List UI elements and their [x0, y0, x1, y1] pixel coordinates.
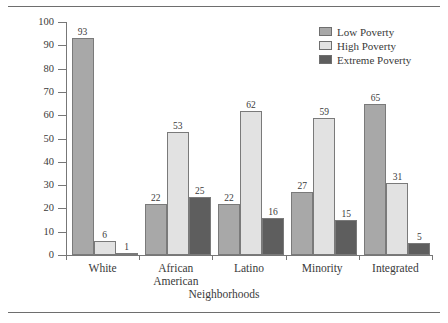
- legend-item[interactable]: Extreme Poverty: [319, 53, 441, 66]
- bar-column: 22: [145, 22, 167, 255]
- bar-value-label: 15: [331, 209, 361, 219]
- x-axis-title: Neighborhoods: [0, 288, 448, 300]
- y-tick-label: 20: [18, 202, 54, 214]
- bar[interactable]: [240, 111, 262, 255]
- bar-column: 25: [189, 22, 211, 255]
- bar-column: 1: [116, 22, 138, 255]
- bar-group-bars: 226216: [218, 22, 284, 255]
- bar-column: 53: [167, 22, 189, 255]
- x-tick-mark: [66, 255, 67, 260]
- x-tick-mark: [432, 255, 433, 260]
- y-tick-label: 70: [18, 86, 54, 98]
- bar-group: 9361: [72, 22, 138, 255]
- y-tick-label: 50: [18, 133, 54, 145]
- y-tick-label: 80: [18, 63, 54, 75]
- bar-value-label: 16: [258, 207, 288, 217]
- x-axis-line: [66, 255, 432, 256]
- bar[interactable]: [313, 118, 335, 255]
- x-axis-category-line: American: [116, 275, 236, 288]
- y-tick-mark: [58, 185, 66, 186]
- legend-swatch-icon: [319, 41, 332, 50]
- bar-column: 62: [240, 22, 262, 255]
- y-tick-label: 0: [18, 249, 54, 261]
- bar[interactable]: [218, 204, 240, 255]
- y-tick-mark: [58, 45, 66, 46]
- top-rule: [8, 6, 440, 7]
- x-axis-category-label: Integrated: [335, 262, 448, 275]
- bar[interactable]: [408, 243, 430, 255]
- y-tick-mark: [58, 139, 66, 140]
- bar[interactable]: [291, 192, 313, 255]
- y-tick-label: 40: [18, 156, 54, 168]
- bar[interactable]: [145, 204, 167, 255]
- legend-item[interactable]: Low Poverty: [319, 25, 441, 38]
- bar-column: 16: [262, 22, 284, 255]
- y-tick-mark: [58, 92, 66, 93]
- legend-swatch-icon: [319, 27, 332, 36]
- bar-column: 27: [291, 22, 313, 255]
- bar-group-bars: 225325: [145, 22, 211, 255]
- legend-label: Low Poverty: [337, 26, 394, 38]
- y-tick-label: 30: [18, 179, 54, 191]
- legend-item[interactable]: High Poverty: [319, 39, 441, 52]
- x-axis-category-line: Integrated: [335, 262, 448, 275]
- bottom-rule: [8, 312, 440, 313]
- bar-value-label: 1: [112, 242, 142, 252]
- legend-swatch-icon: [319, 55, 332, 64]
- bar[interactable]: [262, 218, 284, 255]
- bar-group-bars: 9361: [72, 22, 138, 255]
- y-tick-mark: [58, 115, 66, 116]
- bar-column: 93: [72, 22, 94, 255]
- x-tick-mark: [359, 255, 360, 260]
- bar-group: 225325: [145, 22, 211, 255]
- x-tick-mark: [286, 255, 287, 260]
- legend-label: High Poverty: [337, 40, 396, 52]
- y-tick-mark: [58, 69, 66, 70]
- bar-column: 22: [218, 22, 240, 255]
- y-tick-mark: [58, 162, 66, 163]
- bar-value-label: 5: [404, 232, 434, 242]
- y-tick-label: 10: [18, 226, 54, 238]
- bar[interactable]: [189, 197, 211, 255]
- bar[interactable]: [335, 220, 357, 255]
- bar[interactable]: [386, 183, 408, 255]
- bar-group: 226216: [218, 22, 284, 255]
- x-tick-mark: [212, 255, 213, 260]
- legend: Low PovertyHigh PovertyExtreme Poverty: [319, 25, 441, 67]
- y-tick-mark: [58, 232, 66, 233]
- y-tick-label: 100: [18, 16, 54, 28]
- y-tick-label: 60: [18, 109, 54, 121]
- y-tick-label: 90: [18, 39, 54, 51]
- y-tick-mark: [58, 255, 66, 256]
- y-tick-mark: [58, 208, 66, 209]
- bar[interactable]: [116, 253, 138, 255]
- bar-column: 6: [94, 22, 116, 255]
- x-tick-mark: [139, 255, 140, 260]
- y-tick-mark: [58, 22, 66, 23]
- legend-label: Extreme Poverty: [337, 54, 411, 66]
- bar[interactable]: [72, 38, 94, 255]
- bar-value-label: 25: [185, 186, 215, 196]
- figure: 0102030405060708090100 Percentage 9361Wh…: [0, 0, 448, 323]
